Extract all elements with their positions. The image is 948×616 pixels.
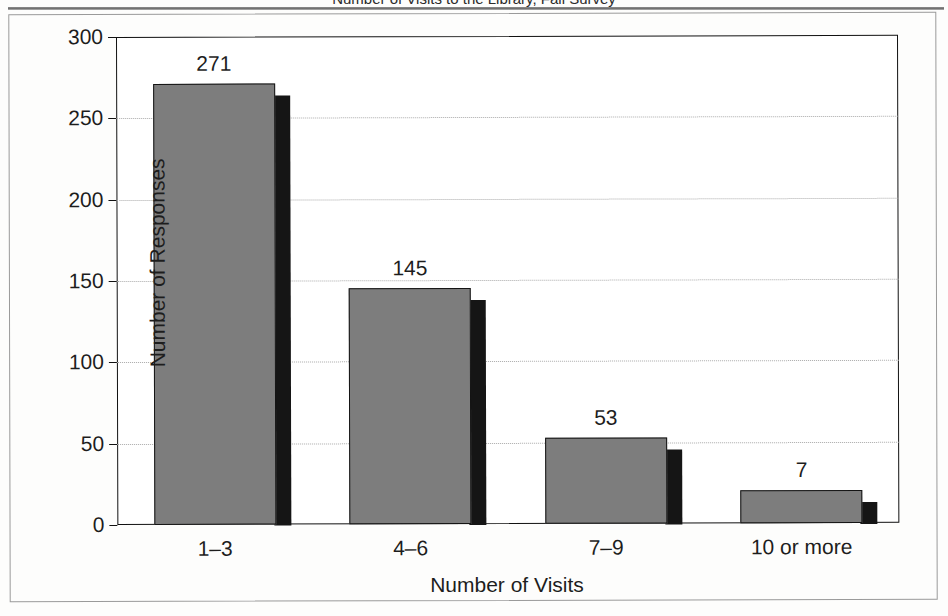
- y-axis-tick-label: 50: [81, 432, 104, 456]
- figure-container: Number of Visits to the Library, Fall Su…: [0, 0, 948, 616]
- bar[interactable]: [545, 437, 667, 524]
- x-axis-category-label: 1–3: [198, 537, 233, 561]
- x-axis-category-label: 4–6: [393, 536, 428, 560]
- y-axis-tick-label: 300: [68, 25, 103, 49]
- plot-area: 050100150200250300 271145537 1–34–67–910…: [116, 35, 899, 525]
- bar-value-label: 145: [392, 256, 427, 280]
- y-axis-tick: [109, 281, 117, 282]
- y-axis-tick-label: 0: [93, 513, 105, 537]
- x-axis-category-label: 7–9: [589, 536, 624, 560]
- bar[interactable]: [741, 490, 863, 523]
- bar-shadow: [665, 449, 682, 524]
- y-axis-tick-label: 250: [68, 106, 103, 130]
- bar[interactable]: [153, 84, 276, 525]
- bar-shadow: [861, 502, 878, 524]
- y-axis-tick: [109, 525, 117, 526]
- figure-caption-cutoff: Number of Visits to the Library, Fall Su…: [0, 0, 948, 7]
- y-axis-title: Number of Responses: [145, 118, 170, 408]
- x-axis-category-label: 10 or more: [751, 535, 853, 559]
- bar-shadow: [469, 300, 487, 525]
- bar-value-label: 53: [594, 405, 617, 429]
- top-rule-divider: [8, 7, 944, 10]
- x-axis-title: Number of Visits: [116, 573, 898, 597]
- y-axis-tick: [108, 37, 116, 38]
- figure-caption-text: Number of Visits to the Library, Fall Su…: [0, 0, 948, 6]
- bar[interactable]: [349, 288, 472, 524]
- y-axis-tick: [109, 444, 117, 445]
- y-axis-tick-label: 150: [69, 269, 104, 293]
- bar-value-label: 7: [796, 459, 808, 483]
- y-axis-tick: [108, 200, 116, 201]
- y-axis-tick: [108, 118, 116, 119]
- y-axis-tick-label: 200: [68, 188, 103, 212]
- y-axis-tick: [109, 362, 117, 363]
- bar-value-label: 271: [196, 52, 231, 76]
- y-axis-tick-label: 100: [69, 350, 104, 374]
